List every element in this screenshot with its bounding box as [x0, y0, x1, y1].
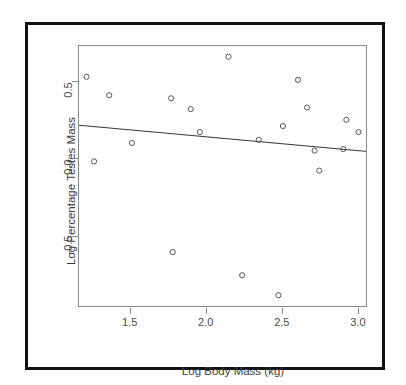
data-point: [92, 159, 97, 164]
data-point: [188, 106, 193, 111]
data-point: [312, 148, 317, 153]
x-tick-mark: [358, 308, 359, 314]
data-point: [344, 117, 349, 122]
data-point: [84, 74, 89, 79]
x-tick-label: 2.0: [186, 316, 226, 328]
data-point: [280, 123, 285, 128]
plot-canvas: [79, 46, 366, 306]
y-axis-title: Log Percentage Testes Mass: [65, 91, 77, 291]
data-point: [276, 293, 281, 298]
regression-line-path: [79, 125, 366, 151]
data-point: [305, 105, 310, 110]
x-tick-label: 1.5: [110, 316, 150, 328]
data-point: [170, 250, 175, 255]
y-tick-label: 0.0: [62, 155, 74, 179]
data-point: [169, 96, 174, 101]
y-tick-label: -0.5: [62, 233, 74, 257]
x-axis-title: Log Body Mass (kg): [53, 365, 406, 377]
y-tick-label: 0.5: [62, 78, 74, 102]
data-point: [240, 273, 245, 278]
scatter-points: [84, 54, 361, 298]
data-point: [317, 168, 322, 173]
data-point: [226, 54, 231, 59]
x-tick-mark: [130, 308, 131, 314]
plot-panel: [78, 45, 367, 307]
x-tick-label: 3.0: [338, 316, 378, 328]
data-point: [107, 93, 112, 98]
regression-line: [79, 125, 366, 151]
x-tick-label: 2.5: [262, 316, 302, 328]
data-point: [129, 140, 134, 145]
data-point: [356, 130, 361, 135]
data-point: [197, 130, 202, 135]
data-point: [295, 77, 300, 82]
x-tick-mark: [282, 308, 283, 314]
x-tick-mark: [206, 308, 207, 314]
